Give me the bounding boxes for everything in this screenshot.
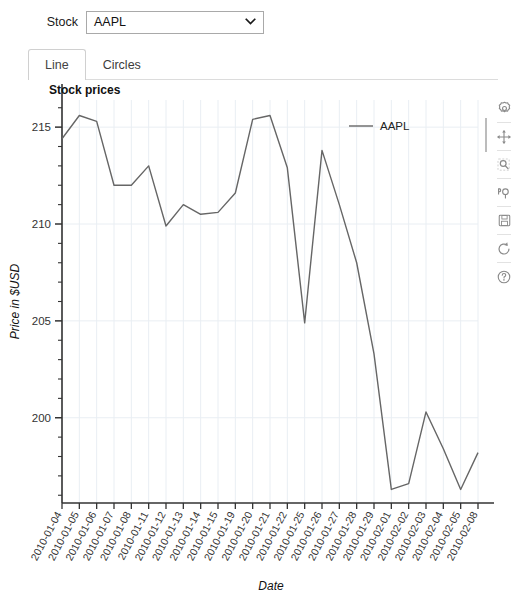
tab-circles[interactable]: Circles [86,49,158,80]
tab-line[interactable]: Line [28,49,86,80]
chart-gridlines [62,100,478,503]
stock-label: Stock [0,15,86,29]
chart-axes [55,84,494,509]
legend-entry-label: AAPL [380,120,410,132]
help-question-icon[interactable] [492,264,516,289]
stock-select-value: AAPL [87,15,126,29]
y-tick-label: 210 [32,218,51,230]
chart-canvas: 2002052102152010-01-042010-01-052010-01-… [0,84,520,611]
stock-select[interactable]: AAPL [86,11,264,34]
y-tick-label: 205 [32,315,51,327]
chart-toolbar [491,96,517,289]
toolbar-divider [497,178,511,179]
move-arrows-icon[interactable] [492,124,516,149]
toolbar-divider [497,262,511,263]
chevron-down-icon [245,16,256,27]
stock-price-chart: 2002052102152010-01-042010-01-052010-01-… [0,84,520,611]
toolbar-divider [497,206,511,207]
chart-title: Stock prices [49,84,121,97]
y-tick-label: 200 [32,412,51,424]
reset-refresh-icon[interactable] [492,236,516,261]
pan-axes-icon[interactable] [492,180,516,205]
tab-underline [28,79,498,80]
toolbar-divider [497,150,511,151]
tab-bar: Line Circles [28,47,498,80]
zoom-magnifier-icon[interactable] [492,152,516,177]
stock-control-row: Stock AAPL [0,8,520,36]
toolbar-divider [497,234,511,235]
y-tick-label: 215 [32,121,51,133]
x-axis-label: Date [258,579,284,593]
toolbar-divider [497,122,511,123]
y-axis-label: Price in $USD [8,263,22,339]
settings-gear-icon[interactable] [492,96,516,121]
save-disk-icon[interactable] [492,208,516,233]
chart-legend: AAPL [349,120,410,132]
toolbar-active-rail [485,118,487,152]
